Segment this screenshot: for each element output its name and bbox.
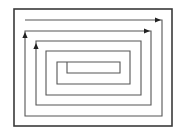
spiral-path [25,20,162,116]
arrowheads [22,17,161,49]
arrow-right-second-icon [144,28,150,33]
spiral-diagram [0,0,185,137]
arrow-up-left-inner-icon [33,43,38,49]
arrow-up-left-outer-icon [22,32,27,38]
outer-frame [14,9,172,126]
arrow-right-top-icon [155,17,161,22]
